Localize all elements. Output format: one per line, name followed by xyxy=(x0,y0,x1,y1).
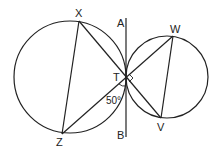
label-B: B xyxy=(117,129,124,141)
label-W: W xyxy=(170,23,181,35)
label-V: V xyxy=(157,121,165,133)
chord-XZ xyxy=(62,21,79,134)
right-angle-marker xyxy=(129,74,133,82)
label-angle-50: 50° xyxy=(106,95,121,106)
label-A: A xyxy=(117,17,125,29)
chord-WV xyxy=(161,36,173,118)
label-X: X xyxy=(75,7,83,19)
label-Z: Z xyxy=(56,136,63,148)
label-T: T xyxy=(113,71,120,83)
line-ZW xyxy=(62,36,173,134)
geometry-diagram: X A W T 50° Z B V xyxy=(0,0,221,153)
